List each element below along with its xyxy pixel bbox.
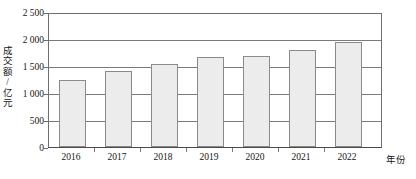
x-axis-label-2017: 2017: [108, 152, 127, 162]
y-axis-tick-labels: 0 500 1 000 1 500 2 000 2 500: [0, 0, 44, 179]
x-axis-tick-mark: [186, 148, 187, 152]
y-axis-tick-label: 2 000: [23, 35, 44, 45]
bar-2019: [197, 57, 224, 147]
x-axis-tick-mark: [278, 148, 279, 152]
bar-chart: 成 交 额 / 亿 元 0 500 1 000 1 500 2 000 2 50…: [0, 0, 416, 179]
gridline-2000: [49, 40, 381, 41]
x-axis-label-2021: 2021: [292, 152, 311, 162]
x-axis-title: 年份: [386, 152, 406, 166]
x-axis-tick-mark: [94, 148, 95, 152]
bar-2022: [335, 42, 362, 147]
y-axis-tick-label: 1 500: [23, 62, 44, 72]
x-axis-label-2018: 2018: [154, 152, 173, 162]
y-axis-tick-mark: [44, 148, 48, 149]
x-axis-label-2022: 2022: [338, 152, 357, 162]
bar-2021: [289, 50, 316, 147]
x-axis-tick-mark: [140, 148, 141, 152]
bar-2017: [105, 71, 132, 147]
bar-2020: [243, 56, 270, 147]
x-axis-tick-mark: [232, 148, 233, 152]
x-axis-label-2016: 2016: [62, 152, 81, 162]
plot-area: [48, 13, 382, 148]
y-axis-tick-label: 2 500: [23, 8, 44, 18]
bar-2016: [59, 80, 86, 147]
bar-2018: [151, 64, 178, 147]
x-axis-label-2020: 2020: [246, 152, 265, 162]
y-axis-tick-label: 1 000: [23, 89, 44, 99]
x-axis-label-2019: 2019: [200, 152, 219, 162]
x-axis-tick-mark: [324, 148, 325, 152]
y-axis-tick-label: 500: [30, 116, 44, 126]
